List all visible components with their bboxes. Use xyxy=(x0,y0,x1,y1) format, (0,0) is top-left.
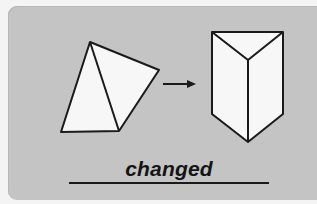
answer-word: changed xyxy=(69,158,269,180)
prism-shape xyxy=(212,32,283,142)
answer-underline xyxy=(69,182,269,184)
right-arrow-icon xyxy=(163,80,196,88)
pyramid-shape xyxy=(61,42,159,132)
